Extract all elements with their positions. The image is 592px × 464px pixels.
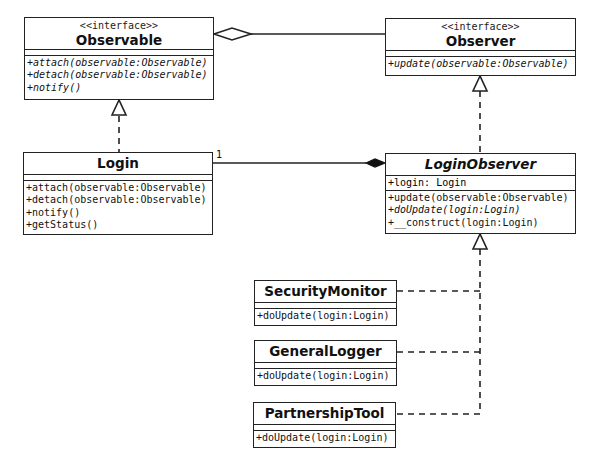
operation: +getStatus() <box>26 219 210 231</box>
operations-compartment: +update(observable:Observable) <box>386 57 575 71</box>
class-name: LoginObserver <box>386 156 575 173</box>
operation: +update(observable:Observable) <box>388 58 573 70</box>
class-header: SecurityMonitor <box>255 281 396 303</box>
class-login-observer[interactable]: LoginObserver +login: Login +update(obse… <box>385 153 576 234</box>
class-name: Observer <box>386 33 575 50</box>
class-name: SecurityMonitor <box>255 283 396 300</box>
hollow-diamond-icon <box>214 28 251 40</box>
class-name: GeneralLogger <box>255 343 396 360</box>
class-observable[interactable]: <<interface>> Observable +attach(observa… <box>24 17 214 100</box>
class-observer[interactable]: <<interface>> Observer +update(observabl… <box>385 18 576 76</box>
class-general-logger[interactable]: GeneralLogger +doUpdate(login:Login) <box>254 340 397 386</box>
class-header: <<interface>> Observable <box>25 18 213 50</box>
attribute: +login: Login <box>388 177 573 189</box>
class-partnership-tool[interactable]: PartnershipTool +doUpdate(login:Login) <box>253 402 396 448</box>
operation: +doUpdate(login:Login) <box>256 432 393 444</box>
operation: +attach(observable:Observable) <box>26 182 210 194</box>
operation: +doUpdate(login:Login) <box>388 204 573 216</box>
stereotype-label: <<interface>> <box>25 18 213 32</box>
realization-connector-subclasses <box>397 234 487 414</box>
operation: +attach(observable:Observable) <box>27 57 211 69</box>
operations-compartment: +doUpdate(login:Login) <box>255 369 396 383</box>
multiplicity-label: 1 <box>216 149 222 160</box>
operation: +doUpdate(login:Login) <box>257 310 394 322</box>
realization-connector-loginobserver-observer <box>473 76 487 153</box>
attributes-compartment: +login: Login <box>386 176 575 191</box>
class-name: Login <box>24 155 212 172</box>
operation: +doUpdate(login:Login) <box>257 370 394 382</box>
hollow-triangle-icon <box>473 234 487 249</box>
operation: +detach(observable:Observable) <box>27 69 211 81</box>
composition-connector <box>213 159 385 167</box>
class-login[interactable]: Login +attach(observable:Observable) +de… <box>23 152 213 235</box>
operation: +notify() <box>26 207 210 219</box>
operation: +update(observable:Observable) <box>388 192 573 204</box>
operations-compartment: +doUpdate(login:Login) <box>255 309 396 323</box>
hollow-triangle-icon <box>112 100 126 115</box>
class-header: <<interface>> Observer <box>386 19 575 51</box>
operations-compartment: +attach(observable:Observable) +detach(o… <box>25 56 213 95</box>
class-header: Login <box>24 153 212 175</box>
operation: +__construct(login:Login) <box>388 217 573 229</box>
class-header: LoginObserver <box>386 154 575 176</box>
aggregation-connector <box>214 28 385 40</box>
class-header: GeneralLogger <box>255 341 396 363</box>
operation: +notify() <box>27 82 211 94</box>
operations-compartment: +attach(observable:Observable) +detach(o… <box>24 181 212 232</box>
hollow-triangle-icon <box>473 76 487 91</box>
class-name: PartnershipTool <box>254 405 395 422</box>
class-name: Observable <box>25 32 213 49</box>
class-header: PartnershipTool <box>254 403 395 425</box>
stereotype-label: <<interface>> <box>386 19 575 33</box>
operations-compartment: +update(observable:Observable) +doUpdate… <box>386 191 575 230</box>
realization-connector-login-observable <box>112 100 126 152</box>
class-security-monitor[interactable]: SecurityMonitor +doUpdate(login:Login) <box>254 280 397 326</box>
operation: +detach(observable:Observable) <box>26 194 210 206</box>
filled-diamond-icon <box>366 159 385 167</box>
operations-compartment: +doUpdate(login:Login) <box>254 431 395 445</box>
